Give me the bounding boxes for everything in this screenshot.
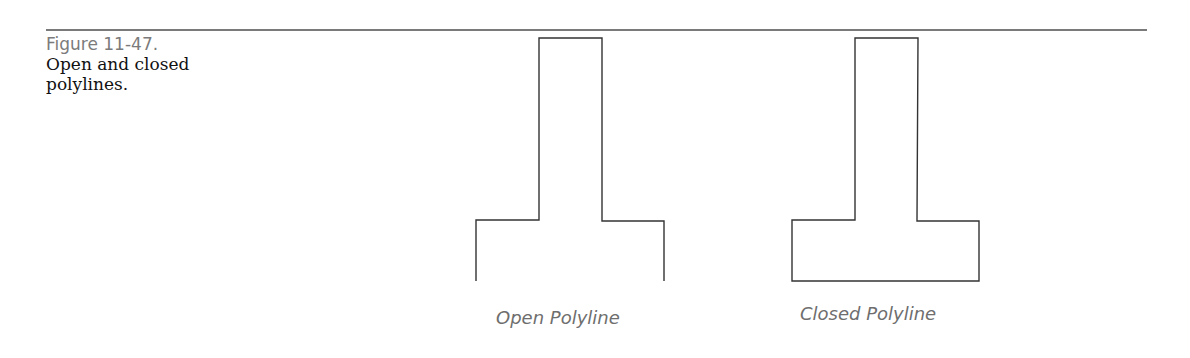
closed-polyline-label: Closed Polyline <box>800 303 936 324</box>
closed-polyline-shape <box>792 38 979 281</box>
open-polyline-label: Open Polyline <box>496 307 620 328</box>
polyline-drawings <box>0 0 1190 358</box>
open-polyline-shape <box>476 38 664 281</box>
